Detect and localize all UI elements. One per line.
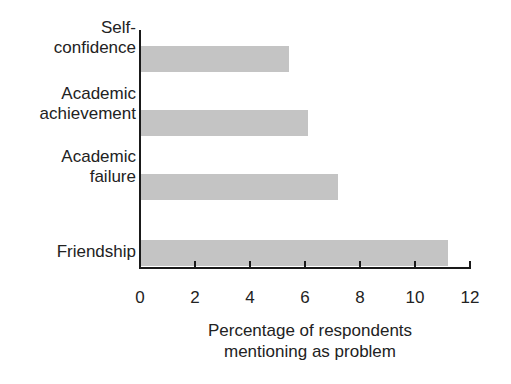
bar-academic-achievement: [140, 110, 308, 136]
x-tick-mark: [469, 261, 471, 268]
category-label-friendship: Friendship: [57, 242, 136, 262]
x-tick-mark: [359, 261, 361, 268]
x-tick-mark: [249, 261, 251, 268]
label-line: Academic: [40, 84, 136, 104]
x-tick-label: 4: [235, 288, 265, 308]
x-axis-title-line: mentioning as problem: [150, 341, 470, 362]
category-label-academic-failure: Academic failure: [61, 147, 136, 187]
bar-chart: Self- confidence Academic achievement Ac…: [0, 0, 511, 384]
label-line: confidence: [54, 38, 136, 58]
label-line: Self-: [54, 18, 136, 38]
category-label-self-confidence: Self- confidence: [54, 18, 136, 58]
x-axis-title: Percentage of respondents mentioning as …: [150, 320, 470, 362]
x-tick-mark: [194, 261, 196, 268]
category-label-academic-achievement: Academic achievement: [40, 84, 136, 124]
x-tick-label: 2: [180, 288, 210, 308]
x-axis-title-line: Percentage of respondents: [150, 320, 470, 341]
bar-self-confidence: [140, 46, 289, 72]
x-tick-label: 6: [290, 288, 320, 308]
label-line: achievement: [40, 104, 136, 124]
label-line: Academic: [61, 147, 136, 167]
x-tick-label: 10: [400, 288, 430, 308]
x-tick-mark: [414, 261, 416, 268]
x-tick-mark: [304, 261, 306, 268]
y-axis-line: [139, 30, 141, 269]
label-line: failure: [61, 167, 136, 187]
x-tick-label: 8: [345, 288, 375, 308]
bar-academic-failure: [140, 174, 338, 200]
x-tick-label: 0: [125, 288, 155, 308]
x-tick-label: 12: [455, 288, 485, 308]
bar-friendship: [140, 240, 448, 266]
label-line: Friendship: [57, 242, 136, 262]
